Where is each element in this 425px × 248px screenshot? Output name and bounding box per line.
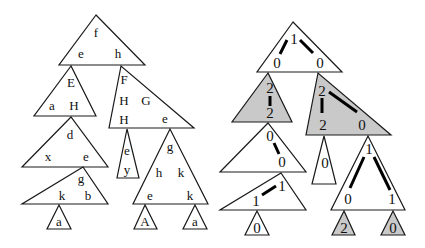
node-label: a: [49, 98, 55, 113]
tree-node-l4: dxe: [22, 117, 108, 167]
tree-node-r4: 00: [220, 123, 306, 172]
node-label: d: [67, 127, 74, 142]
node-label: H: [69, 98, 78, 113]
tree-node-r7: 11: [220, 173, 306, 210]
node-label: g: [78, 171, 85, 186]
node-label: 0: [316, 55, 324, 71]
node-label: 0: [344, 191, 352, 207]
node-label: y: [124, 162, 131, 177]
tree-node-l7: gkb: [22, 167, 108, 204]
node-label: a: [56, 214, 62, 229]
tree-node-l1: feh: [59, 15, 145, 65]
node-label: 1: [290, 31, 298, 47]
node-label: 1: [388, 191, 396, 207]
node-label: 2: [319, 117, 327, 133]
node-label: e: [162, 111, 168, 126]
right-numbered-tree: 1002222000010111020: [220, 22, 405, 236]
tree-node-l9: A: [134, 205, 157, 229]
node-label: 2: [318, 83, 326, 99]
tree-node-r1: 100: [257, 22, 342, 72]
triangle-shape: [220, 173, 306, 210]
node-label: b: [85, 188, 92, 203]
triangle-shape: [232, 73, 292, 122]
tree-node-l3: FHGHe: [109, 66, 194, 128]
tree-node-r5: 0: [312, 136, 336, 184]
tree-node-r6: 101: [331, 136, 405, 210]
node-label: 2: [266, 105, 274, 121]
triangle-shape: [257, 22, 342, 72]
node-label: 0: [278, 154, 286, 170]
tree-node-r3: 220: [306, 73, 391, 135]
node-label: 0: [358, 117, 366, 133]
tree-diagram: fehEaHFHGHedxeeyghkekgkbaAa 100222200001…: [0, 0, 425, 248]
tree-node-r8: 0: [245, 211, 269, 236]
node-label: 2: [266, 80, 274, 96]
node-label: h: [115, 46, 122, 61]
node-label: f: [94, 25, 99, 40]
tree-node-l5: ey: [117, 129, 139, 178]
node-label: k: [178, 165, 185, 180]
node-label: x: [45, 149, 52, 164]
node-label: 1: [278, 178, 286, 194]
node-label: 0: [253, 220, 261, 236]
node-label: 1: [252, 193, 260, 209]
tree-node-l6: ghkek: [133, 129, 208, 204]
node-label: 0: [321, 155, 329, 171]
left-labeled-tree: fehEaHFHGHedxeeyghkekgkbaAa: [22, 15, 208, 229]
node-label: 0: [266, 128, 274, 144]
node-label: e: [124, 143, 130, 158]
tree-node-l2: EaH: [34, 66, 96, 116]
node-label: H: [119, 93, 128, 108]
triangle-shape: [59, 15, 145, 65]
node-label: 2: [340, 220, 348, 236]
triangle-shape: [34, 66, 96, 116]
node-label: e: [147, 188, 153, 203]
tree-node-r2: 22: [232, 73, 292, 122]
tree-node-l8: a: [47, 205, 71, 229]
node-label: h: [156, 165, 163, 180]
tree-node-l10: a: [183, 205, 207, 229]
node-label: 1: [365, 141, 373, 157]
node-label: H: [119, 112, 128, 127]
node-label: e: [78, 46, 84, 61]
node-label: 0: [389, 220, 397, 236]
tree-node-r9: 2: [332, 211, 355, 236]
node-label: k: [187, 188, 194, 203]
node-label: g: [167, 139, 174, 154]
node-label: 0: [273, 55, 281, 71]
node-label: F: [120, 72, 127, 87]
triangle-shape: [220, 123, 306, 172]
node-label: A: [140, 214, 150, 229]
node-label: G: [141, 93, 150, 108]
node-label: e: [83, 149, 89, 164]
node-label: k: [59, 188, 66, 203]
tree-node-r10: 0: [381, 211, 405, 236]
node-label: E: [67, 75, 75, 90]
node-label: a: [192, 214, 198, 229]
triangle-shape: [22, 117, 108, 167]
